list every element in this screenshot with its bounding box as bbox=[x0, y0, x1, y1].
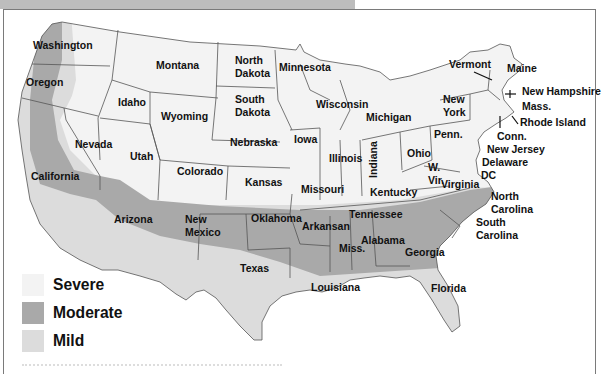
legend-label: Moderate bbox=[53, 303, 123, 323]
state-label-utah: Utah bbox=[130, 150, 153, 162]
state-label-vermont: Vermont bbox=[449, 58, 492, 70]
state-label-tennessee: Tennessee bbox=[349, 208, 403, 220]
legend-item-severe: Severe bbox=[22, 273, 129, 297]
state-label-nebraska: Nebraska bbox=[230, 136, 277, 148]
state-label-alabama: Alabama bbox=[361, 234, 405, 246]
state-label-texas: Texas bbox=[240, 262, 269, 274]
state-label-indiana: Indiana bbox=[367, 141, 379, 178]
state-label-georgia: Georgia bbox=[405, 246, 445, 258]
state-label-kansas: Kansas bbox=[245, 176, 283, 188]
state-label-missouri: Missouri bbox=[301, 183, 344, 195]
state-label-virginia: Virginia bbox=[441, 178, 479, 190]
state-label-new-jersey: New Jersey bbox=[487, 143, 545, 155]
state-label-mass-: Mass. bbox=[522, 100, 551, 112]
legend-label: Severe bbox=[53, 275, 104, 295]
state-label-rhode-island: Rhode Island bbox=[520, 116, 586, 128]
state-label-idaho: Idaho bbox=[118, 96, 146, 108]
state-label-illinois: Illinois bbox=[329, 152, 362, 164]
state-label-oregon: Oregon bbox=[26, 76, 63, 88]
state-label-nevada: Nevada bbox=[75, 138, 113, 150]
state-label-wisconsin: Wisconsin bbox=[316, 98, 368, 110]
legend-item-moderate: Moderate bbox=[22, 301, 129, 325]
legend-swatch-moderate bbox=[22, 302, 44, 324]
state-label-california: California bbox=[31, 170, 80, 182]
state-label-maine: Maine bbox=[507, 62, 537, 74]
state-label-new-hampshire: New Hampshire bbox=[522, 85, 601, 97]
state-label-kentucky: Kentucky bbox=[370, 186, 417, 198]
caption-fragment bbox=[22, 364, 282, 370]
legend-swatch-severe bbox=[22, 274, 44, 296]
state-label-arizona: Arizona bbox=[114, 213, 153, 225]
state-label-oklahoma: Oklahoma bbox=[251, 212, 302, 224]
state-label-penn-: Penn. bbox=[434, 128, 463, 140]
legend: Severe Moderate Mild bbox=[22, 273, 129, 357]
state-label-delaware: Delaware bbox=[482, 156, 528, 168]
state-label-north-carolina: NorthCarolina bbox=[491, 190, 533, 215]
state-label-michigan: Michigan bbox=[366, 111, 412, 123]
state-label-wyoming: Wyoming bbox=[161, 110, 208, 122]
legend-swatch-mild bbox=[22, 330, 44, 352]
state-label-iowa: Iowa bbox=[294, 133, 317, 145]
state-label-arkansan: Arkansan bbox=[302, 220, 350, 232]
state-label-florida: Florida bbox=[431, 282, 466, 294]
state-label-conn-: Conn. bbox=[497, 130, 527, 142]
legend-item-mild: Mild bbox=[22, 329, 129, 353]
state-label-ohio: Ohio bbox=[407, 147, 431, 159]
state-label-new-york: NewYork bbox=[443, 93, 466, 118]
state-label-louisiana: Louisiana bbox=[311, 281, 360, 293]
state-label-dc: DC bbox=[481, 169, 497, 181]
state-label-minnesota: Minnesota bbox=[279, 61, 331, 73]
state-label-colorado: Colorado bbox=[177, 165, 223, 177]
state-label-south-carolina: SouthCarolina bbox=[476, 216, 518, 241]
state-label-montana: Montana bbox=[156, 59, 199, 71]
legend-label: Mild bbox=[53, 331, 84, 351]
state-label-washington: Washington bbox=[33, 39, 93, 51]
